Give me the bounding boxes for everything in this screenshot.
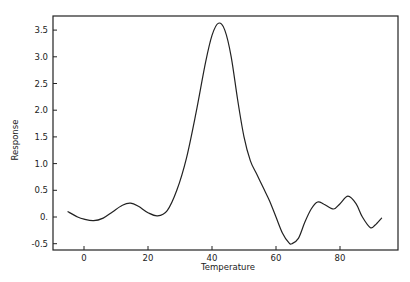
y-tick-label: 1.0 xyxy=(34,159,48,169)
x-tick-label: 0 xyxy=(81,253,86,263)
y-tick-label: 0.5 xyxy=(34,185,48,195)
x-tick-label: 60 xyxy=(271,253,282,263)
y-tick-label: 2.0 xyxy=(34,105,48,115)
y-axis-label: Response xyxy=(10,120,20,161)
y-tick-label: -0.5 xyxy=(31,239,48,249)
plot-frame xyxy=(53,16,398,250)
y-tick-label: 3.0 xyxy=(34,52,48,62)
x-axis-ticks: 020406080 xyxy=(81,246,345,263)
x-tick-label: 20 xyxy=(143,253,154,263)
y-tick-label: 1.5 xyxy=(34,132,48,142)
y-tick-label: 2.5 xyxy=(34,79,48,89)
y-tick-label: 0. xyxy=(40,212,48,222)
response-curve xyxy=(68,23,382,244)
line-chart: -0.50.0.51.01.52.02.53.03.5 020406080 Te… xyxy=(0,0,410,282)
x-tick-label: 80 xyxy=(335,253,346,263)
y-tick-label: 3.5 xyxy=(34,25,48,35)
x-axis-label: Temperature xyxy=(200,262,255,272)
